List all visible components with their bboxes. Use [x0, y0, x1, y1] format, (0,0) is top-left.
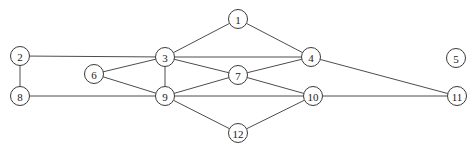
graph-edge — [174, 59, 229, 72]
graph-node-label: 1 — [235, 14, 241, 26]
graph-node[interactable]: 2 — [11, 47, 30, 66]
graph-node-label: 12 — [233, 128, 244, 140]
graph-node-label: 2 — [17, 51, 23, 63]
graph-edge — [103, 77, 156, 93]
graph-edge — [247, 100, 305, 129]
graph-node-label: 4 — [308, 52, 314, 64]
graph-edge — [247, 59, 302, 72]
graph-node-label: 6 — [91, 69, 97, 81]
graph-edge — [30, 56, 156, 57]
graph-node-label: 5 — [453, 53, 459, 65]
graph-node[interactable]: 3 — [156, 48, 175, 67]
graph-edge — [103, 59, 156, 72]
graph-node-label: 9 — [162, 91, 168, 103]
graph-node[interactable]: 11 — [448, 87, 467, 106]
graph-edge — [173, 23, 229, 52]
graph-node-label: 10 — [308, 91, 320, 103]
graph-edge — [174, 78, 229, 94]
graph-node[interactable]: 8 — [11, 87, 30, 106]
graph-node[interactable]: 10 — [304, 87, 323, 106]
graph-node[interactable]: 5 — [447, 49, 466, 68]
graph-node-label: 7 — [235, 70, 241, 82]
graph-node-label: 3 — [162, 52, 168, 64]
graph-diagram-container: 123456789101112 — [0, 0, 476, 152]
graph-node[interactable]: 1 — [229, 10, 248, 29]
graph-edge — [173, 100, 229, 128]
graph-node[interactable]: 6 — [85, 65, 104, 84]
graph-canvas: 123456789101112 — [0, 0, 476, 152]
nodes-layer: 123456789101112 — [11, 10, 467, 143]
graph-edge — [320, 59, 448, 93]
graph-node-label: 8 — [17, 91, 23, 103]
graph-edge — [247, 78, 304, 94]
graph-node-label: 11 — [452, 91, 463, 103]
graph-node[interactable]: 7 — [229, 66, 248, 85]
graph-edge — [246, 23, 302, 52]
graph-node[interactable]: 4 — [302, 48, 321, 67]
graph-node[interactable]: 12 — [229, 124, 248, 143]
graph-node[interactable]: 9 — [156, 87, 175, 106]
